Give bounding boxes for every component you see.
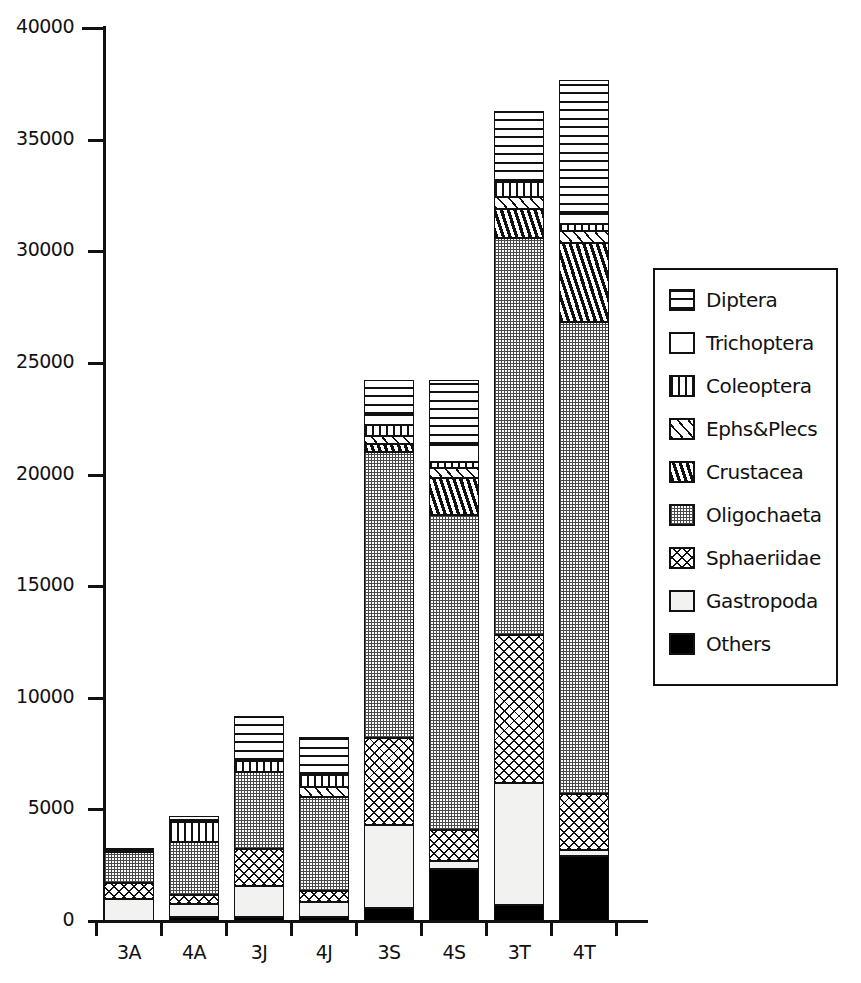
legend-swatch-solid-black-icon	[669, 633, 695, 655]
x-axis-tick	[615, 921, 618, 936]
y-axis-tick	[88, 697, 104, 700]
bar-4J[interactable]	[299, 737, 349, 921]
legend-swatch-empty-white-icon	[669, 332, 695, 354]
bar-segment-4J-sphaeriidae[interactable]	[299, 891, 349, 902]
bar-segment-4S-trichoptera[interactable]	[429, 445, 479, 462]
bar-segment-4S-coleoptera[interactable]	[429, 462, 479, 469]
bar-segment-3S-sphaeriidae[interactable]	[364, 738, 414, 825]
bar-segment-4T-ephs-plecs[interactable]	[559, 231, 609, 243]
legend-label: Sphaeriidae	[706, 546, 821, 570]
bar-segment-4A-diptera[interactable]	[169, 816, 219, 822]
bar-segment-4S-oligochaeta[interactable]	[429, 515, 479, 830]
y-axis-tick-label: 35000	[0, 127, 74, 149]
bar-segment-4T-gastropoda[interactable]	[559, 850, 609, 856]
x-axis-label-3T: 3T	[494, 941, 544, 963]
bar-segment-4S-ephs-plecs[interactable]	[429, 468, 479, 478]
x-axis-label-3J: 3J	[234, 941, 284, 963]
bar-segment-3S-coleoptera[interactable]	[364, 425, 414, 436]
bar-segment-3T-crustacea[interactable]	[494, 209, 544, 238]
bar-segment-3T-ephs-plecs[interactable]	[494, 197, 544, 209]
bar-segment-4J-gastropoda[interactable]	[299, 902, 349, 917]
y-axis-tick	[88, 474, 104, 477]
bar-segment-3S-trichoptera[interactable]	[364, 415, 414, 425]
bar-segment-4A-coleoptera[interactable]	[169, 822, 219, 842]
bar-segment-3S-diptera[interactable]	[364, 380, 414, 415]
bar-segment-3A-sphaeriidae[interactable]	[104, 883, 154, 899]
bar-segment-3S-oligochaeta[interactable]	[364, 452, 414, 738]
bar-segment-4J-coleoptera[interactable]	[299, 775, 349, 787]
legend-item-gastropoda[interactable]: Gastropoda	[669, 589, 818, 613]
bar-segment-3T-sphaeriidae[interactable]	[494, 635, 544, 782]
bar-segment-3J-gastropoda[interactable]	[234, 886, 284, 917]
bar-segment-3T-others[interactable]	[494, 905, 544, 921]
legend-item-diptera[interactable]: Diptera	[669, 288, 777, 312]
bar-segment-4J-ephs-plecs[interactable]	[299, 787, 349, 797]
bar-segment-3A-diptera[interactable]	[104, 848, 154, 852]
y-axis-tick	[88, 250, 104, 253]
bar-segment-3T-oligochaeta[interactable]	[494, 238, 544, 635]
bar-segment-3A-gastropoda[interactable]	[104, 899, 154, 921]
bar-segment-3A-oligochaeta[interactable]	[104, 852, 154, 883]
bar-segment-3T-gastropoda[interactable]	[494, 783, 544, 906]
legend-item-coleoptera[interactable]: Coleoptera	[669, 374, 812, 398]
legend-label: Diptera	[706, 288, 777, 312]
bar-segment-4S-sphaeriidae[interactable]	[429, 830, 479, 861]
y-axis-tick-label: 15000	[0, 573, 74, 595]
x-axis-tick	[95, 921, 98, 936]
y-axis-tick	[88, 139, 104, 142]
bar-segment-4S-gastropoda[interactable]	[429, 861, 479, 868]
y-axis-tick	[88, 585, 104, 588]
legend-item-sphaeriidae[interactable]: Sphaeriidae	[669, 546, 821, 570]
bar-segment-3S-gastropoda[interactable]	[364, 825, 414, 909]
x-axis-label-4T: 4T	[559, 941, 609, 963]
legend-swatch-wavy-lines-icon	[669, 289, 695, 311]
bar-segment-3T-coleoptera[interactable]	[494, 182, 544, 197]
legend-item-others[interactable]: Others	[669, 632, 771, 656]
legend-swatch-empty-light-icon	[669, 590, 695, 612]
bar-segment-3S-crustacea[interactable]	[364, 444, 414, 452]
bar-3T[interactable]	[494, 111, 544, 921]
legend-swatch-diagonal-hatch-icon	[669, 418, 695, 440]
y-axis-tick-label: 30000	[0, 238, 74, 260]
legend-label: Crustacea	[706, 460, 803, 484]
bar-3S[interactable]	[364, 380, 414, 921]
y-axis-tick	[88, 808, 104, 811]
bar-segment-4A-gastropoda[interactable]	[169, 904, 219, 917]
bar-segment-4J-diptera[interactable]	[299, 737, 349, 775]
legend-label: Oligochaeta	[706, 503, 822, 527]
bar-3J[interactable]	[234, 716, 284, 921]
bar-segment-3S-others[interactable]	[364, 908, 414, 921]
bar-segment-4T-others[interactable]	[559, 856, 609, 921]
bar-4S[interactable]	[429, 380, 479, 921]
bar-segment-4T-trichoptera[interactable]	[559, 214, 609, 224]
bar-segment-3J-coleoptera[interactable]	[234, 761, 284, 772]
bar-segment-4J-oligochaeta[interactable]	[299, 797, 349, 891]
bar-segment-4A-sphaeriidae[interactable]	[169, 895, 219, 904]
bar-segment-4T-crustacea[interactable]	[559, 243, 609, 322]
bar-segment-3J-oligochaeta[interactable]	[234, 772, 284, 849]
bar-segment-4T-coleoptera[interactable]	[559, 224, 609, 231]
legend-label: Ephs&Plecs	[706, 417, 817, 441]
bar-segment-4J-others[interactable]	[299, 917, 349, 921]
bar-segment-3T-diptera[interactable]	[494, 111, 544, 182]
bar-segment-4A-others[interactable]	[169, 917, 219, 921]
bar-segment-4T-diptera[interactable]	[559, 80, 609, 214]
bar-segment-4T-oligochaeta[interactable]	[559, 322, 609, 793]
legend-item-trichoptera[interactable]: Trichoptera	[669, 331, 814, 355]
bar-4A[interactable]	[169, 816, 219, 921]
legend-item-ephs-plecs[interactable]: Ephs&Plecs	[669, 417, 817, 441]
bar-segment-4S-others[interactable]	[429, 869, 479, 921]
bar-segment-3S-ephs-plecs[interactable]	[364, 436, 414, 444]
bar-segment-4A-oligochaeta[interactable]	[169, 842, 219, 894]
bar-segment-4S-diptera[interactable]	[429, 380, 479, 445]
bar-segment-4T-sphaeriidae[interactable]	[559, 794, 609, 851]
bar-segment-3J-diptera[interactable]	[234, 716, 284, 761]
bar-segment-3J-others[interactable]	[234, 917, 284, 921]
x-axis-tick	[225, 921, 228, 936]
bar-segment-3J-sphaeriidae[interactable]	[234, 849, 284, 886]
bar-4T[interactable]	[559, 80, 609, 921]
legend-item-crustacea[interactable]: Crustacea	[669, 460, 803, 484]
bar-3A[interactable]	[104, 848, 154, 921]
bar-segment-4S-crustacea[interactable]	[429, 478, 479, 515]
legend-item-oligochaeta[interactable]: Oligochaeta	[669, 503, 822, 527]
